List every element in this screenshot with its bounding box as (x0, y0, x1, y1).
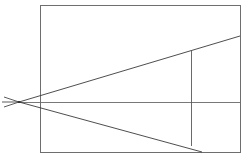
apex-tail-upper-line (4, 97, 19, 102)
lower-ray-line (19, 102, 202, 152)
frame-rectangle (40, 5, 240, 152)
upper-ray-line (19, 36, 240, 102)
line-diagram-svg (0, 0, 248, 160)
figure-container (0, 0, 248, 160)
apex-point (18, 101, 20, 103)
apex-tail-lower-line (4, 102, 19, 107)
